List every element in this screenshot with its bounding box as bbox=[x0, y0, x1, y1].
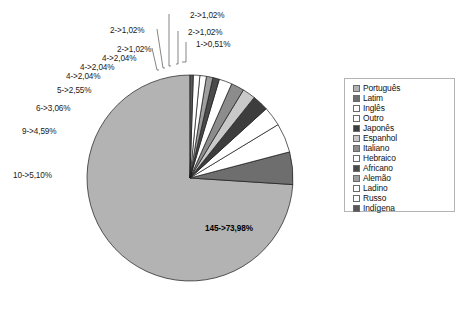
legend-item-ladino[interactable]: Ladino bbox=[353, 183, 454, 193]
legend-swatch-icon bbox=[353, 85, 360, 92]
callout-japones: 5->2,55% bbox=[57, 86, 91, 96]
legend-item-outro[interactable]: Outro bbox=[353, 113, 454, 123]
legend-swatch-icon bbox=[353, 155, 360, 162]
legend-item-label: Espanhol bbox=[363, 133, 397, 143]
legend-item-hebraico[interactable]: Hebraico bbox=[353, 153, 454, 163]
legend-swatch-icon bbox=[353, 125, 360, 132]
legend-item-label: Africano bbox=[363, 163, 393, 173]
legend-item-label: Japonês bbox=[363, 123, 394, 133]
leader-indigena bbox=[182, 42, 186, 62]
legend-item-indgena[interactable]: Indígena bbox=[353, 203, 454, 213]
legend-item-espanhol[interactable]: Espanhol bbox=[353, 133, 454, 143]
legend-swatch-icon bbox=[353, 175, 360, 182]
legend-item-ingls[interactable]: Inglês bbox=[353, 103, 454, 113]
legend-item-alemo[interactable]: Alemão bbox=[353, 173, 454, 183]
legend-swatch-icon bbox=[353, 135, 360, 142]
leader-africano bbox=[152, 48, 159, 70]
legend-item-label: Inglês bbox=[363, 103, 385, 113]
legend-swatch-icon bbox=[353, 165, 360, 172]
callout-espanhol: 4->2,04% bbox=[66, 72, 100, 82]
legend-swatch-icon bbox=[353, 105, 360, 112]
legend-swatch-icon bbox=[353, 205, 360, 212]
legend-swatch-icon bbox=[353, 145, 360, 152]
callout-leader-lines bbox=[152, 14, 186, 70]
legend-item-italiano[interactable]: Italiano bbox=[353, 143, 454, 153]
legend-item-africano[interactable]: Africano bbox=[353, 163, 454, 173]
pie-chart-figure: 1->0,51%2->1,02%2->1,02%2->1,02%2->1,02%… bbox=[0, 0, 473, 318]
pie-slice-group bbox=[87, 75, 293, 281]
legend-item-russo[interactable]: Russo bbox=[353, 193, 454, 203]
callout-ingles: 9->4,59% bbox=[22, 127, 56, 137]
chart-legend: PortuguêsLatimInglêsOutroJaponêsEspanhol… bbox=[344, 78, 455, 212]
legend-item-label: Hebraico bbox=[363, 153, 396, 163]
legend-item-portugus[interactable]: Português bbox=[353, 83, 454, 93]
legend-item-label: Indígena bbox=[363, 203, 395, 213]
legend-item-label: Português bbox=[363, 83, 400, 93]
legend-swatch-icon bbox=[353, 185, 360, 192]
legend-item-label: Alemão bbox=[363, 173, 391, 183]
legend-item-label: Latim bbox=[363, 93, 383, 103]
legend-swatch-icon bbox=[353, 195, 360, 202]
legend-swatch-icon bbox=[353, 95, 360, 102]
slice-label-portugues: 145->73,98% bbox=[205, 224, 253, 233]
legend-item-label: Russo bbox=[363, 193, 386, 203]
callout-outro: 6->3,06% bbox=[36, 104, 70, 114]
legend-item-label: Outro bbox=[363, 113, 383, 123]
leader-russo bbox=[176, 31, 178, 64]
legend-item-label: Ladino bbox=[363, 183, 388, 193]
legend-item-label: Italiano bbox=[363, 143, 389, 153]
legend-swatch-icon bbox=[353, 115, 360, 122]
leader-ladino bbox=[169, 14, 171, 66]
callout-alemao: 2->1,02% bbox=[110, 26, 144, 36]
callout-ladino: 2->1,02% bbox=[190, 11, 224, 21]
legend-item-japons[interactable]: Japonês bbox=[353, 123, 454, 133]
callout-latim: 10->5,10% bbox=[13, 171, 52, 181]
callout-russo: 2->1,02% bbox=[188, 28, 222, 38]
callout-indigena: 1->0,51% bbox=[196, 40, 230, 50]
legend-item-latim[interactable]: Latim bbox=[353, 93, 454, 103]
leader-alemao bbox=[157, 29, 165, 68]
